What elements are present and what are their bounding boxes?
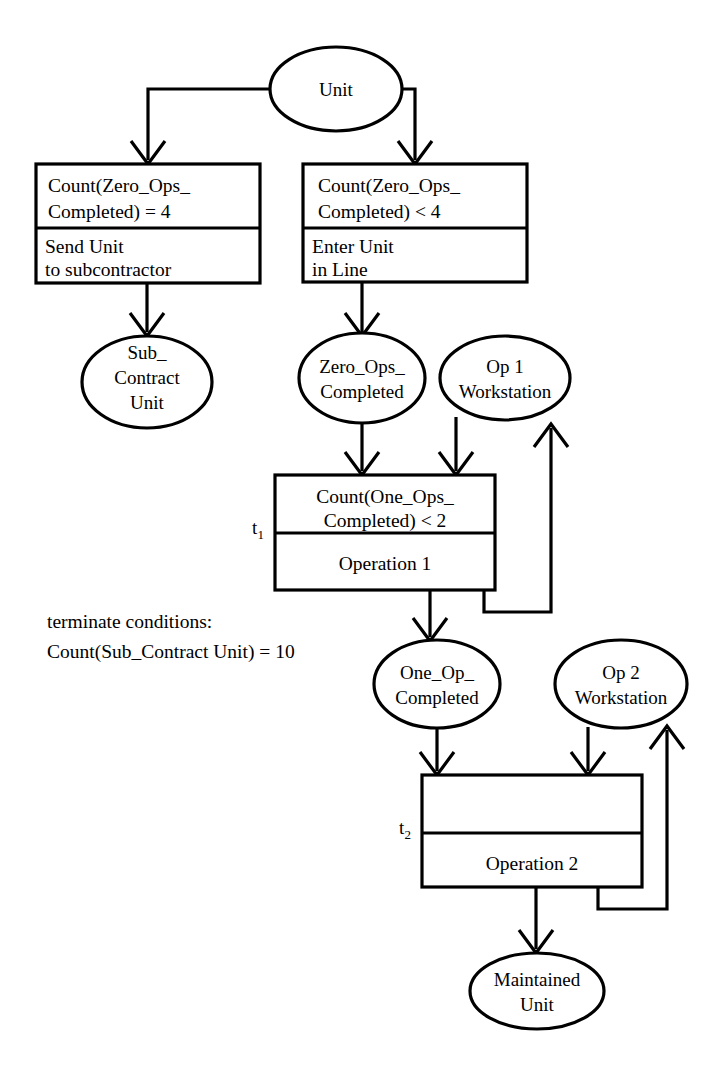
- node-zero-ops-completed-line2: Completed: [320, 381, 404, 402]
- transition-send-action-line1: Send Unit: [45, 236, 124, 257]
- edge-enter-line-to-zero-ops-completed: [345, 282, 379, 336]
- transition-t1-guard-line2: Completed) < 2: [324, 510, 447, 532]
- node-maintained-unit-line2: Unit: [520, 994, 555, 1015]
- transition-t1-name-label: t1: [252, 517, 264, 542]
- node-sub-contract-unit-line3: Unit: [130, 392, 165, 413]
- edge-unit-to-send-subcontractor: [131, 89, 270, 164]
- node-sub-contract-unit-line1: Sub_: [127, 342, 167, 363]
- node-zero-ops-completed-line1: Zero_Ops_: [319, 356, 405, 377]
- node-op1-workstation-line2: Workstation: [459, 381, 552, 402]
- transition-enter-guard-line1: Count(Zero_Ops_: [318, 175, 460, 197]
- transition-send-to-subcontractor[interactable]: Count(Zero_Ops_ Completed) = 4 Send Unit…: [36, 164, 260, 283]
- svg-text:t1: t1: [252, 517, 264, 542]
- edge-op1-workstation-to-t1: [439, 417, 473, 475]
- transition-t1[interactable]: Count(One_Ops_ Completed) < 2 Operation …: [275, 475, 495, 590]
- transition-send-action-line2: to subcontractor: [45, 259, 172, 280]
- edge-unit-to-enter-line: [398, 89, 432, 164]
- flow-diagram-svg: Unit Sub_ Contract Unit Zero_Ops_ Comple…: [0, 0, 721, 1071]
- transition-enter-line[interactable]: Count(Zero_Ops_ Completed) < 4 Enter Uni…: [303, 164, 527, 282]
- transition-enter-guard-line2: Completed) < 4: [318, 201, 441, 223]
- terminate-conditions-value: Count(Sub_Contract Unit) = 10: [47, 641, 295, 663]
- node-one-op-completed[interactable]: One_Op_ Completed: [374, 640, 500, 728]
- node-op2-workstation[interactable]: Op 2 Workstation: [555, 640, 687, 728]
- transition-t1-action-line1: Operation 1: [339, 553, 432, 574]
- edge-op2-workstation-to-t2: [571, 727, 605, 775]
- transition-t2[interactable]: Operation 2: [422, 775, 642, 887]
- node-maintained-unit[interactable]: Maintained Unit: [470, 953, 604, 1029]
- node-one-op-completed-line2: Completed: [395, 687, 479, 708]
- transition-enter-action-line2: in Line: [312, 259, 368, 280]
- node-unit-label: Unit: [319, 79, 354, 100]
- transition-t2-name-label: t2: [399, 817, 411, 842]
- node-one-op-completed-line1: One_Op_: [400, 662, 474, 683]
- terminate-conditions-heading: terminate conditions:: [47, 611, 212, 632]
- node-sub-contract-unit-line2: Contract: [114, 367, 180, 388]
- transition-send-guard-line2: Completed) = 4: [48, 201, 171, 223]
- edge-t2-to-maintained-unit: [519, 887, 553, 953]
- terminate-conditions-note: terminate conditions: Count(Sub_Contract…: [47, 611, 295, 663]
- edge-zero-ops-completed-to-t1: [345, 422, 379, 475]
- node-sub-contract-unit[interactable]: Sub_ Contract Unit: [82, 336, 212, 428]
- edge-subcontractor-to-sub-contract-unit: [130, 283, 164, 336]
- transition-t2-action-line1: Operation 2: [486, 853, 579, 874]
- svg-text:t2: t2: [399, 817, 411, 842]
- node-op2-workstation-line2: Workstation: [575, 687, 668, 708]
- diagram-canvas: Unit Sub_ Contract Unit Zero_Ops_ Comple…: [0, 0, 721, 1071]
- t2-subscript: 2: [404, 827, 411, 842]
- node-unit[interactable]: Unit: [270, 47, 402, 131]
- node-op2-workstation-line1: Op 2: [602, 662, 639, 683]
- transition-t1-guard-line1: Count(One_Ops_: [316, 486, 454, 508]
- transition-enter-action-line1: Enter Unit: [312, 236, 394, 257]
- node-op1-workstation-line1: Op 1: [486, 356, 523, 377]
- t1-subscript: 1: [257, 527, 264, 542]
- edge-one-op-completed-to-t2: [420, 727, 454, 775]
- node-op1-workstation[interactable]: Op 1 Workstation: [440, 336, 570, 420]
- transition-send-guard-line1: Count(Zero_Ops_: [48, 175, 190, 197]
- node-zero-ops-completed[interactable]: Zero_Ops_ Completed: [299, 333, 425, 423]
- edge-t1-to-one-op-completed: [413, 590, 447, 641]
- node-maintained-unit-line1: Maintained: [494, 969, 581, 990]
- edge-t1-feedback-to-op1-workstation: [484, 424, 568, 612]
